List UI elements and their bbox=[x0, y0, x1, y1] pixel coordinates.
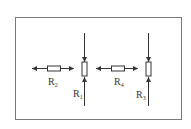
resistor-r3 bbox=[146, 62, 151, 76]
label-r2: R2 bbox=[48, 76, 58, 88]
label-r1: R1 bbox=[73, 88, 83, 100]
resistor-r4 bbox=[112, 66, 125, 71]
resistor-diagram: R2 R1 R4 R3 bbox=[0, 0, 191, 129]
resistor-r2 bbox=[48, 66, 61, 71]
label-r4: R4 bbox=[114, 76, 124, 88]
label-r3: R3 bbox=[136, 89, 146, 101]
resistor-group-2: R4 R3 bbox=[96, 33, 151, 106]
resistor-group-1: R2 R1 bbox=[32, 33, 87, 106]
resistor-r1 bbox=[82, 62, 87, 76]
